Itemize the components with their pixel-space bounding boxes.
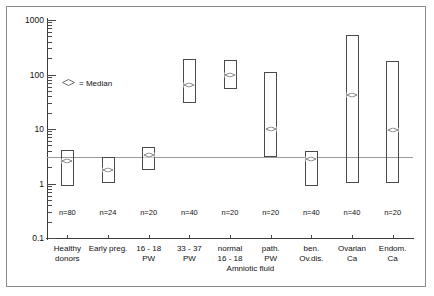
- sample-size-label: n=40: [181, 208, 198, 217]
- boxplot-box: [142, 147, 155, 170]
- y-tick-minor: [47, 77, 52, 78]
- y-tick-minor: [47, 25, 52, 26]
- y-tick-minor: [47, 192, 52, 193]
- y-tick-minor: [47, 145, 52, 146]
- y-tick-minor: [47, 151, 52, 152]
- x-category-label-line: Ovarian: [338, 244, 366, 254]
- boxplot-median-marker: [143, 153, 154, 158]
- x-category-label-line: Early preg.: [89, 244, 128, 254]
- boxplot-median-marker: [62, 158, 73, 163]
- y-tick-minor: [47, 200, 52, 201]
- x-tick: [311, 235, 312, 238]
- x-tick: [230, 235, 231, 238]
- x-category-label: 33 - 37PW: [177, 244, 202, 264]
- x-category-label-line: Endom.: [379, 244, 407, 254]
- x-category-label-line: Healthy: [54, 244, 81, 254]
- x-tick: [67, 235, 68, 238]
- boxplot-median-marker: [184, 82, 195, 87]
- y-tick-minor: [47, 131, 52, 132]
- y-tick-minor: [47, 91, 52, 92]
- y-tick-minor: [47, 137, 52, 138]
- boxplot-median-marker: [347, 93, 358, 98]
- y-tick-label: 1: [39, 179, 44, 189]
- y-tick-minor: [47, 96, 52, 97]
- boxplot-median-marker: [225, 72, 236, 77]
- boxplot-box: [264, 72, 277, 157]
- x-axis-line: [46, 238, 414, 239]
- legend: = Median: [62, 79, 112, 88]
- sample-size-label: n=20: [222, 208, 239, 217]
- x-category-label-line: Ca: [338, 254, 366, 264]
- x-category-label-line: path.: [262, 244, 280, 254]
- x-tick: [149, 235, 150, 238]
- x-category-label-line: PW: [136, 254, 161, 264]
- x-category-label: Early preg.: [89, 244, 128, 254]
- y-tick-minor: [47, 58, 52, 59]
- y-tick-minor: [47, 196, 52, 197]
- x-tick: [393, 235, 394, 238]
- boxplot-median-marker: [103, 167, 114, 172]
- y-tick-minor: [47, 80, 52, 81]
- sample-size-label: n=40: [344, 208, 361, 217]
- sample-size-label: n=20: [262, 208, 279, 217]
- x-category-label: Healthydonors: [54, 244, 81, 264]
- x-category-label-line: 33 - 37: [177, 244, 202, 254]
- x-category-label: Endom.Ca: [379, 244, 407, 264]
- y-tick-minor: [47, 141, 52, 142]
- x-category-label: normal16 - 18: [218, 244, 243, 264]
- y-tick-minor: [47, 28, 52, 29]
- y-tick-minor: [47, 83, 52, 84]
- y-tick-major: [47, 75, 56, 76]
- sample-size-label: n=20: [140, 208, 157, 217]
- x-category-label-line: ben.: [299, 244, 323, 254]
- y-tick-minor: [47, 113, 52, 114]
- y-tick-minor: [47, 186, 52, 187]
- x-tick: [271, 235, 272, 238]
- boxplot-box: [61, 150, 74, 186]
- x-category-label-line: Ov.dis.: [299, 254, 323, 264]
- boxplot-median-marker: [265, 127, 276, 132]
- y-tick-minor: [47, 42, 52, 43]
- y-tick-minor: [47, 22, 52, 23]
- x-tick: [352, 235, 353, 238]
- y-tick-minor: [47, 36, 52, 37]
- x-category-label: OvarianCa: [338, 244, 366, 264]
- y-tick-label: 10: [35, 124, 44, 134]
- y-tick-minor: [47, 134, 52, 135]
- y-tick-minor: [47, 212, 52, 213]
- y-tick-label: 100: [30, 70, 44, 80]
- x-category-label-line: normal: [218, 244, 243, 254]
- y-tick-minor: [47, 189, 52, 190]
- figure-root: 10001001010.1 = Median n=80n=24n=20n=40n…: [0, 0, 434, 296]
- sample-size-label: n=24: [100, 208, 117, 217]
- boxplot-box: [183, 59, 196, 103]
- y-tick-minor: [47, 32, 52, 33]
- x-category-label-line: donors: [54, 254, 81, 264]
- y-tick-minor: [47, 87, 52, 88]
- x-category-label-line: 16 - 18: [136, 244, 161, 254]
- y-tick-minor: [47, 205, 52, 206]
- sample-size-label: n=40: [303, 208, 320, 217]
- sample-size-label: n=20: [384, 208, 401, 217]
- y-tick-major: [47, 184, 56, 185]
- x-category-label-line: PW: [177, 254, 202, 264]
- boxplot-box: [386, 61, 399, 183]
- y-tick-major: [47, 20, 56, 21]
- x-category-label: path.PW: [262, 244, 280, 264]
- y-tick-label: 0.1: [32, 233, 44, 243]
- boxplot-median-marker: [306, 157, 317, 162]
- y-tick-minor: [47, 48, 52, 49]
- x-category-label: 16 - 18PW: [136, 244, 161, 264]
- x-tick: [108, 235, 109, 238]
- x-tick: [189, 235, 190, 238]
- y-tick-minor: [47, 222, 52, 223]
- boxplot-box: [346, 35, 359, 183]
- y-tick-minor: [47, 167, 52, 168]
- sample-size-label: n=80: [59, 208, 76, 217]
- y-tick-major: [47, 238, 56, 239]
- legend-label: = Median: [79, 79, 112, 88]
- x-category-label-line: Ca: [379, 254, 407, 264]
- y-axis-labels: 10001001010.1: [0, 0, 44, 296]
- median-diamond-icon: [62, 79, 75, 88]
- x-category-label-line: 16 - 18: [218, 254, 243, 264]
